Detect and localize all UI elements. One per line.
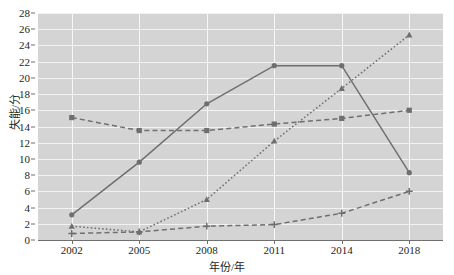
x-tick-label: 2018 xyxy=(379,245,439,256)
x-tick-label: 2005 xyxy=(109,245,169,256)
x-tick-mark xyxy=(72,240,73,244)
x-tick-label: 2008 xyxy=(177,245,237,256)
x-tick-mark xyxy=(342,240,343,244)
x-axis-tick-labels: 200220052008201120142018 xyxy=(0,0,454,275)
x-tick-label: 2014 xyxy=(312,245,372,256)
x-tick-mark xyxy=(409,240,410,244)
line-chart: 0246810121416182022242628 失能/分 200220052… xyxy=(0,0,454,275)
x-axis-title: 年份/年 xyxy=(0,258,454,274)
x-tick-mark xyxy=(207,240,208,244)
x-tick-label: 2002 xyxy=(42,245,102,256)
x-tick-mark xyxy=(274,240,275,244)
x-tick-mark xyxy=(139,240,140,244)
x-tick-label: 2011 xyxy=(244,245,304,256)
